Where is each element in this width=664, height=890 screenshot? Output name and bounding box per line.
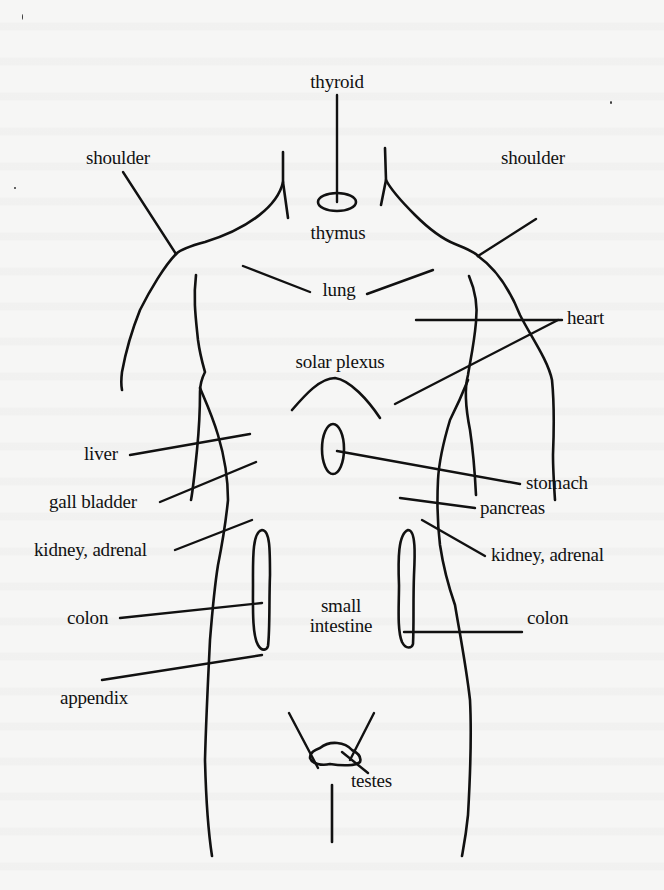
neck-left: [176, 152, 283, 254]
neck-left-tick: [283, 182, 288, 218]
diagram-page: thyroid shoulder shoulder thymus lung he…: [0, 0, 664, 890]
right-arm-outline: [478, 256, 555, 500]
scan-speck: [14, 187, 16, 189]
scan-speck: [610, 101, 612, 104]
lung-right-leader: [367, 270, 433, 294]
thyroid-label: thyroid: [310, 72, 364, 91]
shoulder-left-label: shoulder: [86, 148, 150, 167]
right-torso-outline: [466, 276, 477, 495]
small-intestine-label: small intestine: [310, 596, 373, 636]
kidney-adrenal-right-label: kidney, adrenal: [491, 545, 604, 564]
shoulder-right-label: shoulder: [501, 148, 565, 167]
right-waist-outline: [437, 380, 470, 856]
lung-label: lung: [323, 280, 356, 299]
left-arm-outline: [121, 254, 176, 390]
liver-leader: [130, 434, 250, 455]
kidney-right-leader: [422, 520, 485, 556]
shoulder-left-leader: [123, 172, 176, 254]
liver-label: liver: [84, 444, 118, 463]
pancreas-label: pancreas: [480, 498, 545, 517]
heart-lower-leader: [395, 320, 558, 404]
stomach-shape: [322, 424, 344, 474]
testes-left-line: [289, 713, 318, 768]
solar-plexus-arch: [292, 378, 380, 418]
gall-bladder-label: gall bladder: [49, 492, 137, 511]
left-waist-outline: [200, 388, 228, 856]
colon-left-label: colon: [67, 608, 108, 627]
shoulder-right-leader: [478, 219, 536, 256]
colon-right-label: colon: [527, 608, 568, 627]
testes-label: testes: [351, 771, 392, 790]
scan-speck: [22, 14, 23, 20]
gall-bladder-leader: [160, 462, 256, 502]
colon-left-leader: [120, 603, 262, 618]
left-torso-outline: [191, 275, 205, 500]
stomach-leader: [337, 451, 520, 484]
colon-right-shape: [399, 530, 415, 648]
stomach-label: stomach: [526, 473, 588, 492]
thymus-label: thymus: [311, 223, 366, 242]
kidney-left-leader: [175, 520, 252, 550]
appendix-label: appendix: [60, 688, 128, 707]
small-intestine-label-line1: small: [321, 595, 361, 616]
solar-plexus-label: solar plexus: [296, 352, 385, 371]
lung-left-leader: [243, 266, 310, 292]
small-intestine-label-line2: intestine: [310, 615, 373, 636]
testes-right-line: [350, 713, 374, 760]
neck-right: [385, 148, 478, 256]
neck-right-tick: [381, 180, 386, 205]
colon-left-shape: [253, 530, 270, 650]
heart-label: heart: [567, 308, 604, 327]
appendix-leader: [102, 655, 262, 680]
kidney-adrenal-left-label: kidney, adrenal: [34, 540, 147, 559]
